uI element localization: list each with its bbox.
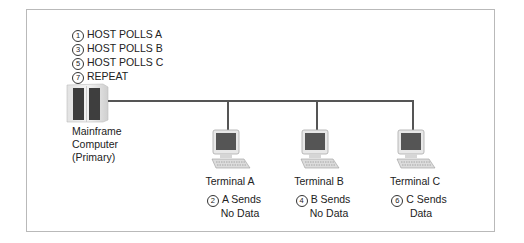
terminal-c-label: Terminal C [383,175,447,188]
mainframe-label-line: (Primary) [72,151,122,164]
step-text: B Sends [311,193,351,205]
terminal-a-label: Terminal A [198,175,262,188]
mainframe-icon [63,81,109,123]
step-text: Data [389,207,449,220]
terminal-icon [295,129,341,173]
terminal-icon [206,129,252,173]
host-steps-list: 1HOST POLLS A 3HOST POLLS B 5HOST POLLS … [72,28,163,84]
mainframe-label: Mainframe Computer (Primary) [72,125,122,164]
host-step: 5HOST POLLS C [72,56,163,70]
host-step-text: HOST POLLS A [87,28,162,40]
step-number-badge: 3 [72,44,84,56]
drop-line-terminal-a [227,100,229,131]
step-text: No Data [204,207,264,220]
terminal-c-step: 6C Sends Data [389,193,449,220]
terminal-b-step: 4B Sends No Data [293,193,353,220]
network-bus-line [108,100,414,102]
terminal-a-step: 2A Sends No Data [204,193,264,220]
step-number-badge: 2 [207,195,219,207]
mainframe-label-line: Computer [72,138,122,151]
terminal-b-label: Terminal B [287,175,351,188]
mainframe-label-line: Mainframe [72,125,122,138]
step-text: C Sends [406,193,446,205]
host-step: 1HOST POLLS A [72,28,163,42]
step-number-badge: 5 [72,58,84,70]
step-number-badge: 6 [391,195,403,207]
drop-line-terminal-c [412,100,414,131]
step-number-badge: 1 [72,30,84,42]
step-text: No Data [293,207,353,220]
terminal-icon [391,129,437,173]
host-step-text: HOST POLLS C [87,56,163,68]
drop-line-terminal-b [316,100,318,131]
host-step-text: HOST POLLS B [87,42,163,54]
step-number-badge: 4 [296,195,308,207]
step-text: A Sends [222,193,261,205]
host-step: 3HOST POLLS B [72,42,163,56]
